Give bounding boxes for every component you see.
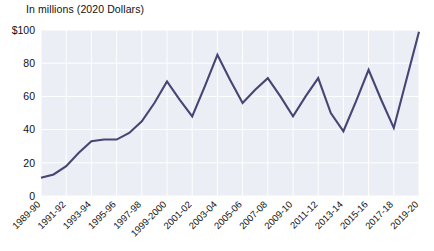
x-axis-tick-labels: 1989-901991-921993-941995-961997-981999-… <box>10 199 420 239</box>
y-axis-tick-label: 60 <box>23 90 35 102</box>
chart-figure: In millions (2020 Dollars) 020406080$100… <box>0 0 434 251</box>
y-axis-tick-label: 80 <box>23 57 35 69</box>
x-axis-tick-label: 2019-20 <box>388 199 420 231</box>
y-axis-tick-label: 40 <box>23 123 35 135</box>
y-axis-tick-labels: 020406080$100 <box>12 24 36 202</box>
line-chart-plot: 020406080$100 1989-901991-921993-941995-… <box>0 0 434 251</box>
plot-background <box>41 30 419 196</box>
y-axis-tick-label: $100 <box>12 24 36 36</box>
x-axis-tick-label: 2009-10 <box>262 199 294 231</box>
y-axis-tick-label: 20 <box>23 157 35 169</box>
